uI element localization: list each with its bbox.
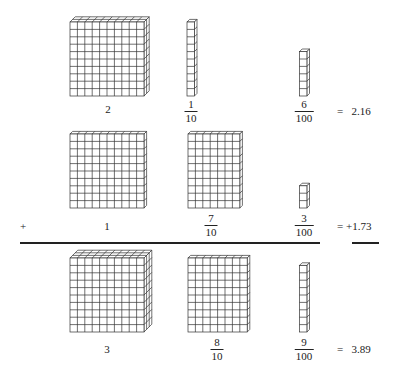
row2-ones-label: 1 [104, 221, 110, 232]
row1-tenths-numerator: 1 [185, 99, 198, 111]
row3-hundredths-numerator: 9 [295, 337, 314, 349]
row2-tenths-fraction: 7 10 [205, 213, 218, 238]
row2-hundredths-cubes-block [300, 183, 310, 208]
row3-hundredths-denominator: 100 [295, 349, 314, 362]
row1-hundredths-cubes-block [300, 49, 310, 96]
row3-hundredths-fraction: 9 100 [295, 337, 314, 362]
row3-tenths-denominator: 10 [211, 349, 224, 362]
row1-hundredths-denominator: 100 [295, 111, 314, 124]
row1-ones-flat-block [70, 17, 149, 96]
row1-hundredths-numerator: 6 [295, 99, 314, 111]
result-sum-rule [352, 242, 379, 244]
row2-tenths-rods-block [188, 131, 242, 208]
row2-result: = +1.73 [337, 221, 371, 232]
row3-ones-label: 3 [104, 344, 110, 355]
row3-tenths-fraction: 8 10 [211, 337, 224, 362]
row2-ones-flat-block [70, 131, 147, 208]
row1-tenths-denominator: 10 [185, 111, 198, 124]
row2-hundredths-fraction: 3 100 [295, 213, 314, 238]
row3-ones-flat-block [70, 250, 152, 332]
row2-hundredths-denominator: 100 [295, 225, 314, 238]
row1-result: = 2.16 [337, 106, 371, 117]
row1-tenths-rod-block [187, 19, 197, 96]
row2-hundredths-numerator: 3 [295, 213, 314, 225]
plus-sign: + [20, 221, 26, 232]
row1-tenths-fraction: 1 10 [185, 99, 198, 124]
row1-ones-label: 2 [105, 104, 111, 115]
row1-hundredths-fraction: 6 100 [295, 99, 314, 124]
row2-tenths-denominator: 10 [205, 225, 218, 238]
row3-tenths-rods-block [188, 255, 250, 332]
row3-hundredths-cubes-block [300, 263, 310, 332]
sum-rule [20, 242, 320, 244]
row2-tenths-numerator: 7 [205, 213, 218, 225]
row3-tenths-numerator: 8 [211, 337, 224, 349]
row3-result: = 3.89 [337, 344, 371, 355]
base-ten-blocks-canvas [0, 0, 401, 373]
